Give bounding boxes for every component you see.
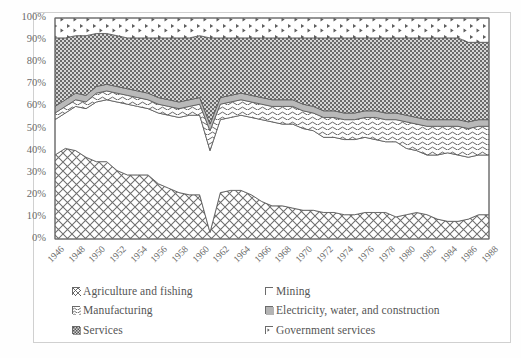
y-tick-label: 50% [12, 122, 46, 133]
legend-item[interactable]: Mining [265, 281, 475, 301]
legend-label: Agriculture and fishing [83, 285, 193, 297]
legend-swatch-icon [265, 287, 273, 295]
legend-label: Manufacturing [83, 304, 153, 316]
y-tick-label: 90% [12, 33, 46, 44]
chart-legend: Agriculture and fishingManufacturingServ… [72, 281, 472, 339]
legend-item[interactable]: Agriculture and fishing [72, 281, 262, 301]
legend-label: Services [83, 324, 123, 336]
y-tick-label: 80% [12, 55, 46, 66]
legend-label: Government services [276, 324, 375, 336]
legend-swatch-icon [265, 306, 273, 314]
legend-column-left: Agriculture and fishingManufacturingServ… [72, 281, 262, 340]
y-tick-label: 70% [12, 77, 46, 88]
legend-item[interactable]: Services [72, 320, 262, 340]
legend-label: Electricity, water, and construction [276, 304, 440, 316]
y-tick-label: 60% [12, 99, 46, 110]
legend-column-right: MiningElectricity, water, and constructi… [265, 281, 475, 340]
legend-label: Mining [276, 285, 310, 297]
y-tick-label: 20% [12, 188, 46, 199]
figure-container: 0%10%20%30%40%50%60%70%80%90%100% 194619… [0, 0, 521, 358]
legend-item[interactable]: Manufacturing [72, 301, 262, 321]
legend-swatch-icon [265, 326, 273, 334]
legend-item[interactable]: Government services [265, 320, 475, 340]
area-layers [55, 18, 489, 239]
legend-swatch-icon [72, 326, 80, 334]
y-tick-label: 30% [12, 166, 46, 177]
legend-swatch-icon [72, 306, 80, 314]
y-tick-label: 100% [12, 11, 46, 22]
legend-item[interactable]: Electricity, water, and construction [265, 301, 475, 321]
y-tick-label: 40% [12, 144, 46, 155]
y-tick-label: 0% [12, 232, 46, 243]
legend-swatch-icon [72, 287, 80, 295]
y-tick-label: 10% [12, 210, 46, 221]
